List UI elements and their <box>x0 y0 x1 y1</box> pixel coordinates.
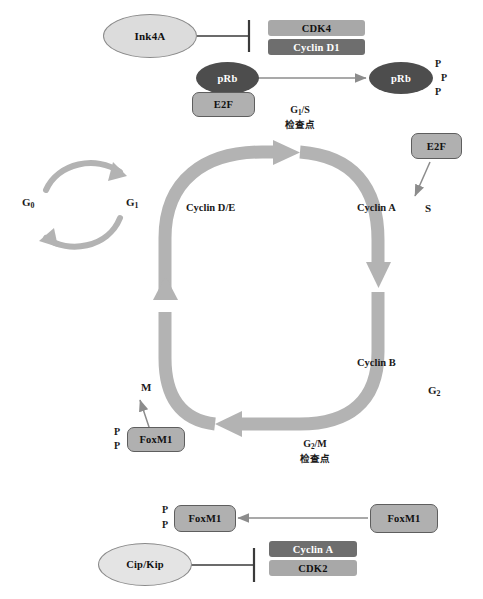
prb-right-node[interactable]: pRb <box>369 62 433 94</box>
foxm1-to-m-arrow <box>140 400 150 430</box>
foxm1-m-phosphate-2: P <box>114 440 120 451</box>
foxm1-m-label: FoxM1 <box>139 434 172 445</box>
ink4a-inhibition-connector <box>197 20 249 52</box>
cell-cycle-ring <box>153 140 391 437</box>
cyclin-a-node[interactable]: Cyclin A <box>269 541 357 557</box>
cdk4-label: CDK4 <box>302 23 331 34</box>
foxm1-m-phosphate-1: P <box>114 426 120 437</box>
phosphate-mark-2: P <box>441 72 447 83</box>
m-phase-label: M <box>141 381 151 393</box>
g1-label: G1 <box>126 196 139 210</box>
g1s-checkpoint-label: G1/S 检查点 <box>268 104 332 131</box>
e2f-left-label: E2F <box>214 99 233 110</box>
e2f-right-label: E2F <box>427 141 446 152</box>
quiescence-loop-arrows <box>39 162 127 247</box>
foxm1-phospho-label: FoxM1 <box>188 513 221 524</box>
e2f-left-node[interactable]: E2F <box>192 92 255 117</box>
cyclin-b-cycle-label: Cyclin B <box>357 357 396 368</box>
bottom-phosphate-1: P <box>162 504 168 515</box>
foxm1-source-label: FoxM1 <box>387 513 420 524</box>
e2f-to-s-arrow <box>415 162 430 196</box>
prb-left-label: pRb <box>218 73 238 84</box>
cdk2-node[interactable]: CDK2 <box>269 560 357 576</box>
s-phase-label: S <box>425 202 431 214</box>
g0-label: G0 <box>22 196 35 210</box>
foxm1-source-node[interactable]: FoxM1 <box>370 504 438 533</box>
cdk2-label: CDK2 <box>298 563 327 574</box>
ink4a-node[interactable]: Ink4A <box>103 14 197 58</box>
g1s-checkpoint-line2: 检查点 <box>268 119 332 131</box>
bottom-phosphate-2: P <box>162 519 168 530</box>
cyclin-de-label: Cyclin D/E <box>186 202 235 213</box>
g2-phase-label: G2 <box>428 384 441 398</box>
cdk4-node[interactable]: CDK4 <box>268 20 365 36</box>
cyclin-d1-label: Cyclin D1 <box>293 42 339 53</box>
e2f-right-node[interactable]: E2F <box>411 133 462 159</box>
phosphate-mark-1: P <box>435 58 441 69</box>
g1s-checkpoint-line1: G1/S <box>268 104 332 119</box>
cyclin-d1-node[interactable]: Cyclin D1 <box>268 39 365 55</box>
cell-cycle-diagram: pRb (phosphorylation arrow) ---------- -… <box>0 0 483 599</box>
cip-kip-node[interactable]: Cip/Kip <box>98 543 192 586</box>
cyclin-a-cycle-label: Cyclin A <box>357 202 396 213</box>
g2m-checkpoint-line1: G2/M <box>283 438 347 453</box>
cipkip-inhibition-connector <box>191 548 254 582</box>
phosphate-mark-3: P <box>435 86 441 97</box>
g2m-checkpoint-line2: 检查点 <box>283 453 347 465</box>
prb-left-node[interactable]: pRb <box>196 62 259 94</box>
foxm1-m-node[interactable]: FoxM1 <box>127 427 185 452</box>
cyclin-a-label: Cyclin A <box>293 544 333 555</box>
foxm1-phospho-node[interactable]: FoxM1 <box>174 505 236 532</box>
g2m-checkpoint-label: G2/M 检查点 <box>283 438 347 465</box>
cip-kip-label: Cip/Kip <box>126 559 164 570</box>
ink4a-label: Ink4A <box>135 30 166 42</box>
prb-right-label: pRb <box>391 73 411 84</box>
